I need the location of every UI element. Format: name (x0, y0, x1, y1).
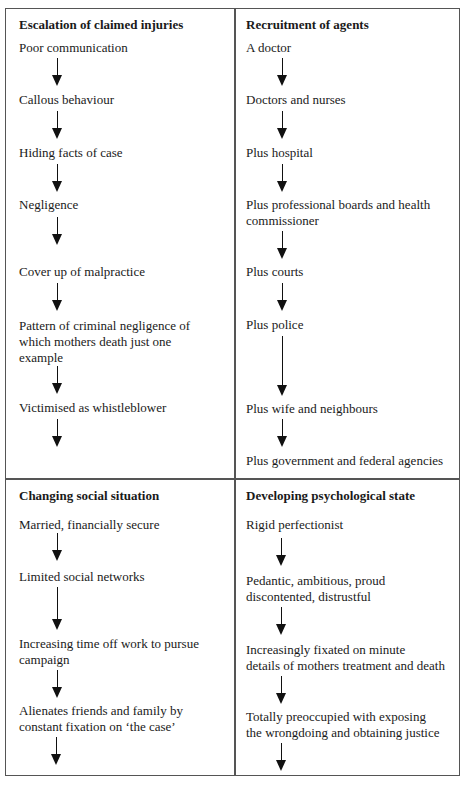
panel-title: Changing social situation (19, 488, 159, 504)
down-arrow-icon (277, 283, 287, 311)
flow-step: Negligence (19, 197, 78, 212)
flow-step: Cover up of malpractice (19, 264, 145, 279)
flow-step: Married, financially secure (19, 517, 159, 532)
flow-step: A doctor (246, 40, 291, 55)
down-arrow-icon (52, 419, 62, 447)
flow-step: example (19, 350, 63, 365)
panel-title: Escalation of claimed injuries (19, 17, 183, 33)
flow-step: Increasingly fixated on minute (246, 642, 405, 657)
flow-step: Plus government and federal agencies (246, 453, 443, 468)
down-arrow-icon (276, 538, 286, 566)
down-arrow-icon (277, 58, 287, 86)
flow-step: Plus professional boards and health (246, 197, 430, 212)
flow-step: Doctors and nurses (246, 92, 346, 107)
flow-step: Pattern of criminal negligence of (19, 318, 190, 333)
flow-step: Victimised as whistleblower (19, 400, 166, 415)
down-arrow-icon (276, 607, 286, 635)
down-arrow-icon (51, 737, 61, 765)
flow-step: constant fixation on ‘the case’ (19, 719, 176, 734)
flow-step: Increasing time off work to pursue (19, 636, 199, 651)
flow-step: the wrongdoing and obtaining justice (246, 725, 440, 740)
down-arrow-icon (52, 587, 62, 630)
flow-step: which mothers death just one (19, 334, 171, 349)
down-arrow-icon (52, 111, 62, 139)
down-arrow-icon (276, 676, 286, 704)
flow-step: campaign (19, 652, 70, 667)
down-arrow-icon (52, 164, 62, 192)
flow-step: Callous behaviour (19, 92, 114, 107)
flow-step: commissioner (246, 213, 319, 228)
flow-step: details of mothers treatment and death (246, 658, 445, 673)
flow-step: Limited social networks (19, 569, 145, 584)
flow-step: Poor communication (19, 40, 128, 55)
flow-step: Plus police (246, 317, 303, 332)
down-arrow-icon (277, 164, 287, 192)
down-arrow-icon (52, 533, 62, 561)
down-arrow-icon (276, 743, 286, 771)
flow-step: Plus hospital (246, 145, 313, 160)
flow-step: Pedantic, ambitious, proud (246, 573, 385, 588)
down-arrow-icon (52, 58, 62, 86)
down-arrow-icon (52, 366, 62, 394)
down-arrow-icon (277, 231, 287, 259)
down-arrow-icon (277, 419, 287, 447)
down-arrow-icon (277, 111, 287, 139)
flow-step: Plus courts (246, 264, 303, 279)
flow-step: Totally preoccupied with exposing (246, 709, 426, 724)
vertical-divider (234, 8, 236, 776)
down-arrow-icon (52, 670, 62, 698)
panel-title: Recruitment of agents (246, 17, 369, 33)
panel-title: Developing psychological state (246, 488, 415, 504)
down-arrow-icon (52, 283, 62, 311)
flow-step: discontented, distrustful (246, 589, 371, 604)
flow-step: Plus wife and neighbours (246, 401, 378, 416)
flow-step: Hiding facts of case (19, 145, 123, 160)
flow-step: Alienates friends and family by (19, 703, 183, 718)
down-arrow-icon (52, 217, 62, 245)
horizontal-divider (5, 478, 460, 480)
down-arrow-icon (277, 336, 287, 396)
flow-step: Rigid perfectionist (246, 517, 343, 532)
